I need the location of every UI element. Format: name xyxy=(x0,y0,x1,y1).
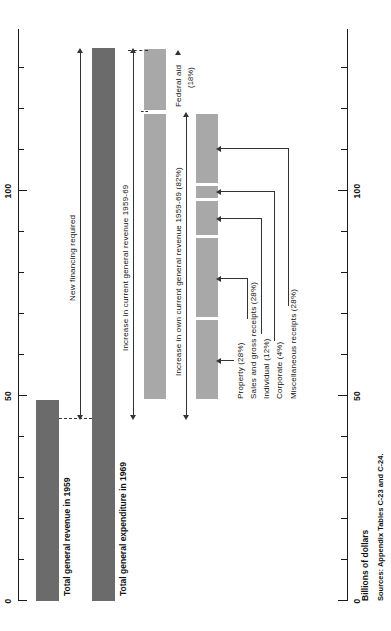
axis-tick-bottom-100 xyxy=(338,190,347,191)
callout-label-individual: Individual (12%) xyxy=(262,338,271,399)
span-arrow-right-increase-own-revenue xyxy=(183,112,189,117)
callout-hline-corporate xyxy=(274,191,275,341)
chart-canvas: 0 50 100 0 50 100 Total general revenue … xyxy=(0,0,391,631)
callout-arrow-individual xyxy=(216,216,221,222)
axis-tick-bottom-110 xyxy=(341,149,347,150)
axis-tick-top-20 xyxy=(18,518,24,519)
callout-label-property: Property (28%) xyxy=(236,342,245,399)
callout-line-miscellaneous xyxy=(220,148,289,149)
bar-total-general-expenditure-1969[interactable] xyxy=(92,48,115,601)
callout-line-corporate xyxy=(220,191,275,192)
axis-tick-bottom-10 xyxy=(341,559,347,560)
span-line-increase-own-revenue xyxy=(186,115,187,417)
axis-tick-top-70 xyxy=(18,313,24,314)
dashed-guide-49 xyxy=(59,418,92,419)
source-note: Sources: Appendix Tables C-23 and C-24. xyxy=(376,453,385,601)
axis-tick-bottom-40 xyxy=(341,436,347,437)
axis-tick-bottom-30 xyxy=(341,477,347,478)
bar-seg-miscellaneous-receipts[interactable] xyxy=(196,114,218,183)
axis-tick-top-130 xyxy=(18,67,24,68)
annotation-new-financing-required: New financing required xyxy=(68,215,77,301)
callout-label-corporate: Corporate (4%) xyxy=(275,342,284,400)
axis-tick-top-120 xyxy=(18,108,24,109)
axis-tick-top-110 xyxy=(18,149,24,150)
annotation-federal-aid: Federal aid xyxy=(174,65,183,107)
axis-label-top-50: 50 xyxy=(3,391,13,401)
axis-label-bottom-100: 100 xyxy=(352,183,362,198)
axis-tick-top-50 xyxy=(18,395,27,396)
callout-label-miscellaneous-receipts: Miscellaneous receipts (28%) xyxy=(289,289,298,399)
span-arrow-left-new-financing xyxy=(77,415,83,420)
axis-tick-bottom-20 xyxy=(341,518,347,519)
axis-tick-top-0 xyxy=(18,600,27,601)
axis-tick-top-30 xyxy=(18,477,24,478)
axis-label-top-100: 100 xyxy=(3,183,13,198)
bar-seg-corporate[interactable] xyxy=(196,186,218,198)
span-line-increase-current-revenue xyxy=(133,51,134,417)
axis-title-billions-of-dollars: Billions of dollars xyxy=(360,530,370,601)
callout-label-sales-and-gross-receipts: Sales and gross receipts (28%) xyxy=(249,282,258,399)
axis-tick-bottom-0 xyxy=(338,600,347,601)
annotation-federal-aid-arrow xyxy=(175,50,181,55)
span-arrow-left-increase-current-revenue xyxy=(130,415,136,420)
callout-hline-individual xyxy=(261,218,262,334)
axis-line-bottom xyxy=(347,29,348,601)
bar-label-total-general-expenditure-1969: Total general expenditure in 1969 xyxy=(118,462,128,596)
bar-seg-own-current-general-revenue[interactable] xyxy=(144,114,166,399)
axis-tick-bottom-90 xyxy=(341,231,347,232)
axis-label-bottom-50: 50 xyxy=(352,391,362,401)
callout-line-property xyxy=(220,360,234,361)
axis-tick-bottom-130 xyxy=(341,67,347,68)
callout-line-individual xyxy=(220,218,262,219)
callout-arrow-sales xyxy=(216,276,221,282)
bar-total-general-revenue-1959[interactable] xyxy=(36,400,59,601)
span-arrow-left-increase-own-revenue xyxy=(183,415,189,420)
bar-seg-individual[interactable] xyxy=(196,201,218,235)
dashed-tick-119 xyxy=(141,111,148,112)
bar-label-total-general-revenue-1959: Total general revenue in 1959 xyxy=(62,478,72,596)
axis-label-top-0: 0 xyxy=(3,598,13,603)
annotation-increase-current-general-revenue: Increase in current general revenue 1959… xyxy=(121,185,130,351)
callout-hline-sales xyxy=(247,278,248,319)
callout-arrow-miscellaneous xyxy=(216,146,221,152)
axis-tick-bottom-60 xyxy=(341,354,347,355)
axis-tick-bottom-80 xyxy=(341,272,347,273)
dashed-tick-134 xyxy=(128,50,148,51)
axis-tick-bottom-120 xyxy=(341,108,347,109)
callout-arrow-corporate xyxy=(216,189,221,195)
axis-tick-top-10 xyxy=(18,559,24,560)
bar-seg-federal-aid[interactable] xyxy=(144,49,166,110)
callout-hline-miscellaneous xyxy=(288,148,289,306)
axis-tick-top-90 xyxy=(18,231,24,232)
axis-tick-top-100 xyxy=(18,190,27,191)
plot-area: 0 50 100 0 50 100 Total general revenue … xyxy=(0,0,391,631)
axis-tick-top-40 xyxy=(18,436,24,437)
bar-seg-property[interactable] xyxy=(196,320,218,399)
span-arrow-right-new-financing xyxy=(77,48,83,53)
span-line-new-financing xyxy=(80,51,81,417)
annotation-federal-aid-percent: (18%) xyxy=(186,67,195,88)
axis-line-top xyxy=(18,29,19,601)
axis-tick-top-80 xyxy=(18,272,24,273)
axis-tick-bottom-50 xyxy=(338,395,347,396)
callout-line-sales xyxy=(220,278,248,279)
annotation-increase-own-current-general-revenue: Increase in own current general revenue … xyxy=(174,167,183,376)
bar-seg-sales-and-gross-receipts[interactable] xyxy=(196,238,218,317)
callout-arrow-property xyxy=(216,358,221,364)
axis-tick-bottom-70 xyxy=(341,313,347,314)
axis-tick-top-60 xyxy=(18,354,24,355)
